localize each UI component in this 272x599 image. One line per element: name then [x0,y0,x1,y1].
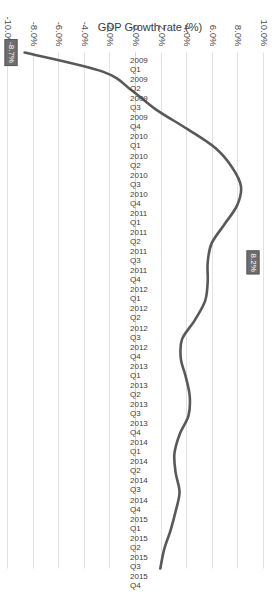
data-point-label: 8.2% [246,250,259,274]
y-tick-label: -8.0% [28,12,39,46]
y-tick-label: 6.0% [207,12,218,46]
chart-figure: GDP Growth rate (%) 10.0%8.0%6.0%4.0%2.0… [0,0,272,599]
y-tick-label: -2.0% [105,12,116,46]
y-tick-label: 2.0% [156,12,167,46]
y-axis-tick-labels: 10.0%8.0%6.0%4.0%2.0%0.0%-2.0%-4.0%-6.0%… [0,14,272,46]
data-point-label: -8.7% [4,39,17,66]
y-tick-label: 8.0% [233,12,244,46]
y-tick-label: -4.0% [79,12,90,46]
y-tick-label: -6.0% [54,12,65,46]
plot-area: 8.2%-8.7% [8,52,264,568]
x-tick-label: 2015Q4 [130,571,148,589]
y-tick-label: 0.0% [131,12,142,46]
y-tick-label: 4.0% [182,12,193,46]
plot-area-wrapper: GDP Growth rate (%) 10.0%8.0%6.0%4.0%2.0… [0,0,272,599]
gdp-growth-line-series [8,52,264,568]
y-tick-label: 10.0% [259,12,270,46]
